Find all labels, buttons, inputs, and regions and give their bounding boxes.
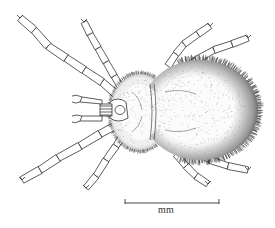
leg-segment: [38, 155, 60, 173]
leg-segment: [103, 144, 118, 162]
leg-segment: [103, 60, 117, 77]
leg-segment: [46, 43, 68, 61]
leg-1-left-lower: [19, 121, 120, 184]
gnathosoma: [72, 95, 128, 123]
mite-illustration: [0, 0, 275, 228]
body: [106, 55, 263, 166]
leg-segment: [213, 41, 233, 53]
leg-segment: [87, 32, 101, 49]
scale-bar-label: mm: [158, 204, 174, 215]
leg-segment: [78, 131, 102, 150]
leg-segment: [194, 173, 210, 187]
leg-segment: [81, 21, 93, 36]
leg-segment: [31, 28, 51, 49]
leg-segment: [82, 67, 104, 85]
leg-segment: [20, 167, 42, 184]
leg-segment: [64, 55, 86, 73]
leg-segment: [95, 46, 109, 63]
leg-segment: [56, 142, 82, 161]
leg-segment: [182, 31, 200, 46]
leg-segment: [93, 158, 109, 178]
